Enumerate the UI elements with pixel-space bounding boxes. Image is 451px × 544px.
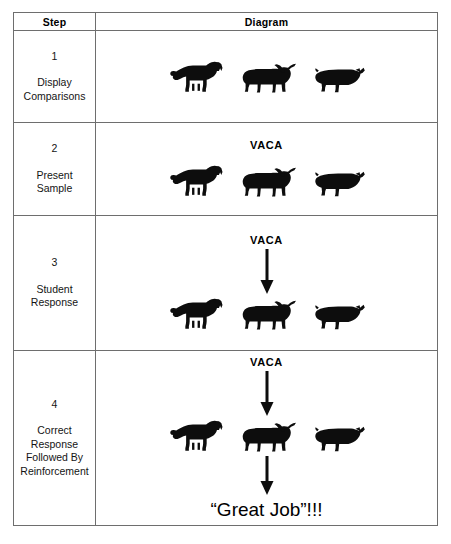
dog-silhouette-icon — [168, 297, 224, 331]
animal-row — [168, 163, 366, 199]
diagram-canvas: Step Diagram 1 Display Comparisons — [0, 0, 451, 544]
pig-silhouette-icon — [314, 61, 366, 93]
step-cell-2: 2 Present Sample — [14, 123, 96, 216]
cow-silhouette-icon — [240, 296, 298, 332]
step-label: Student Response — [14, 283, 95, 310]
dog-silhouette-icon — [168, 164, 224, 198]
down-arrow-icon — [259, 456, 275, 496]
table-row: 4 Correct Response Followed By Reinforce… — [14, 351, 438, 526]
diagram-cell-4: VACA — [96, 351, 438, 526]
step-number: 4 — [14, 398, 95, 412]
praise-text: “Great Job”!!! — [211, 499, 323, 521]
step-number: 3 — [14, 256, 95, 270]
cow-silhouette-icon — [240, 59, 298, 95]
diagram-cell-3: VACA — [96, 216, 438, 351]
pig-silhouette-icon — [314, 298, 366, 330]
dog-silhouette-icon — [168, 419, 224, 453]
step-cell-4: 4 Correct Response Followed By Reinforce… — [14, 351, 96, 526]
animal-row — [168, 418, 366, 454]
header-row: Step Diagram — [14, 13, 438, 31]
step-label: Correct Response Followed By Reinforceme… — [14, 424, 95, 478]
down-arrow-icon — [259, 249, 275, 295]
table-header: Step Diagram — [14, 13, 438, 31]
table-row: 3 Student Response VACA — [14, 216, 438, 351]
animal-row — [168, 296, 366, 332]
cow-silhouette-icon — [240, 163, 298, 199]
dog-silhouette-icon — [168, 60, 224, 94]
down-arrow-icon — [259, 371, 275, 417]
step-cell-1: 1 Display Comparisons — [14, 31, 96, 123]
cue-word: VACA — [250, 356, 283, 369]
step-number: 1 — [14, 50, 95, 64]
pig-silhouette-icon — [314, 165, 366, 197]
diagram-cell-1 — [96, 31, 438, 123]
cow-silhouette-icon — [240, 418, 298, 454]
column-header-step: Step — [14, 13, 96, 31]
table-body: 1 Display Comparisons — [14, 31, 438, 526]
table-row: 1 Display Comparisons — [14, 31, 438, 123]
step-label: Display Comparisons — [14, 76, 95, 103]
column-header-diagram: Diagram — [96, 13, 438, 31]
animal-row — [168, 59, 366, 95]
diagram-cell-2: VACA — [96, 123, 438, 216]
protocol-table: Step Diagram 1 Display Comparisons — [13, 12, 438, 526]
table-row: 2 Present Sample VACA — [14, 123, 438, 216]
step-number: 2 — [14, 142, 95, 156]
cue-word: VACA — [250, 139, 283, 152]
step-label: Present Sample — [14, 169, 95, 196]
step-cell-3: 3 Student Response — [14, 216, 96, 351]
pig-silhouette-icon — [314, 420, 366, 452]
cue-word: VACA — [250, 234, 283, 247]
